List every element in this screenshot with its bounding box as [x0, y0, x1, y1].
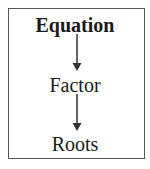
arrow-down-icon [73, 94, 82, 131]
arrows [0, 0, 150, 169]
arrow-down-icon [73, 34, 82, 71]
